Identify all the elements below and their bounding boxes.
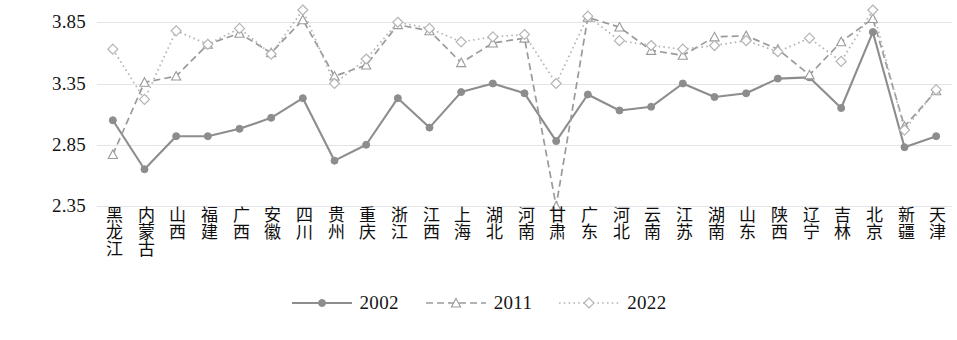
x-axis-tick-text: 江苏: [674, 206, 691, 240]
data-point: [710, 41, 720, 51]
data-point: [805, 33, 815, 43]
x-axis-tick-text: 山西: [167, 206, 184, 240]
data-point: [553, 138, 560, 145]
data-point: [711, 93, 718, 100]
data-point: [838, 105, 845, 112]
y-axis-tick-label: 3.35: [52, 73, 86, 95]
x-axis-tick-text: 四川: [294, 206, 311, 240]
data-point: [457, 58, 466, 67]
x-axis-tick-label: 辽宁: [799, 206, 821, 244]
x-axis-tick-label: 新疆: [894, 206, 916, 244]
data-point: [489, 80, 496, 87]
x-axis-tick-text: 辽宁: [801, 206, 818, 240]
x-axis-tick-text: 湖北: [484, 206, 501, 240]
x-axis-tick-text: 贵州: [326, 206, 343, 240]
x-axis-tick-text: 江西: [421, 206, 438, 240]
data-point: [456, 37, 466, 47]
data-point: [868, 5, 878, 15]
x-axis-tick-text: 黑龙江: [104, 206, 121, 257]
data-point: [204, 133, 211, 140]
x-axis-tick-text: 广东: [579, 206, 596, 240]
data-point: [679, 80, 686, 87]
x-axis-tick-text: 吉林: [832, 206, 849, 240]
x-axis-tick-label: 江西: [419, 206, 441, 244]
legend-label: 2022: [627, 292, 666, 314]
x-axis-tick-text: 河北: [611, 206, 628, 240]
legend-swatch-2022: [558, 295, 620, 311]
legend-marker: [318, 300, 325, 307]
x-axis-tick-label: 广东: [577, 206, 599, 244]
data-point: [710, 32, 719, 41]
x-axis-tick-text: 北京: [864, 206, 881, 240]
y-axis-tick-label: 2.35: [52, 195, 86, 217]
x-axis-tick-label: 江苏: [672, 206, 694, 244]
data-point: [616, 107, 623, 114]
x-axis-tick-label: 云南: [640, 206, 662, 244]
data-point: [551, 79, 561, 89]
x-axis-tick-text: 甘肃: [547, 206, 564, 240]
y-axis-tick-label: 3.85: [52, 11, 86, 33]
legend-swatch-2011: [425, 295, 487, 311]
legend-item-2011[interactable]: 2011: [425, 292, 533, 314]
x-axis-tick-label: 河南: [514, 206, 536, 244]
x-axis-tick-label: 山东: [735, 206, 757, 244]
data-point: [363, 141, 370, 148]
x-axis-tick-text: 陕西: [769, 206, 786, 240]
legend-item-2002[interactable]: 2002: [291, 292, 399, 314]
data-point: [108, 150, 117, 159]
data-point: [298, 5, 308, 15]
legend-item-2022[interactable]: 2022: [558, 292, 666, 314]
x-axis-tick-text: 山东: [737, 206, 754, 240]
data-point: [171, 26, 181, 36]
data-point: [236, 125, 243, 132]
x-axis-tick-label: 四川: [292, 206, 314, 244]
data-point: [933, 133, 940, 140]
x-axis-tick-label: 甘肃: [545, 206, 567, 244]
x-axis-tick-text: 重庆: [357, 206, 374, 240]
x-axis-tick-text: 河南: [516, 206, 533, 240]
x-axis-tick-label: 安徽: [260, 206, 282, 244]
data-point: [837, 37, 846, 46]
legend-marker: [584, 298, 594, 308]
series-line: [113, 32, 936, 169]
chart-legend: 200220112022: [0, 292, 957, 314]
data-point: [173, 133, 180, 140]
x-axis-tick-text: 湖南: [706, 206, 723, 240]
data-point: [426, 124, 433, 131]
x-axis-tick-label: 吉林: [830, 206, 852, 244]
legend-swatch-2002: [291, 295, 353, 311]
x-axis-tick-label: 天津: [925, 206, 947, 244]
series-layer: [97, 10, 952, 206]
data-point: [331, 157, 338, 164]
x-axis-tick-label: 陕西: [767, 206, 789, 244]
data-point: [648, 103, 655, 110]
x-axis-tick-label: 贵州: [324, 206, 346, 244]
x-axis-tick-label: 福建: [197, 206, 219, 244]
x-axis-tick-label: 浙江: [387, 206, 409, 244]
data-point: [488, 32, 498, 42]
x-axis-tick-text: 福建: [199, 206, 216, 240]
data-point: [901, 144, 908, 151]
x-axis: 黑龙江内蒙古山西福建广西安徽四川贵州重庆浙江江西上海湖北河南甘肃广东河北云南江苏…: [97, 206, 952, 286]
data-point: [458, 89, 465, 96]
data-point: [646, 41, 656, 51]
data-point: [235, 23, 245, 33]
data-point: [584, 91, 591, 98]
x-axis-tick-text: 上海: [452, 206, 469, 240]
data-point: [521, 90, 528, 97]
series-2002: [109, 29, 939, 173]
data-point: [268, 114, 275, 121]
x-axis-tick-label: 黑龙江: [102, 206, 124, 261]
data-point: [299, 95, 306, 102]
x-axis-tick-label: 内蒙古: [134, 206, 156, 261]
data-point: [141, 166, 148, 173]
x-axis-tick-label: 山西: [165, 206, 187, 244]
data-point: [394, 95, 401, 102]
x-axis-tick-text: 安徽: [262, 206, 279, 240]
x-axis-tick-label: 湖北: [482, 206, 504, 244]
line-chart: 2.352.853.353.85 黑龙江内蒙古山西福建广西安徽四川贵州重庆浙江江…: [0, 0, 957, 340]
x-axis-tick-label: 河北: [609, 206, 631, 244]
x-axis-tick-text: 广西: [231, 206, 248, 240]
x-axis-tick-label: 上海: [450, 206, 472, 244]
x-axis-tick-text: 新疆: [896, 206, 913, 240]
